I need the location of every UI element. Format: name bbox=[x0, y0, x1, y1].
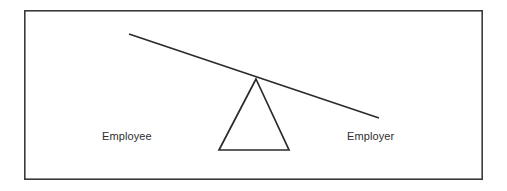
diagram-border bbox=[25, 11, 482, 179]
label-employer: Employer bbox=[347, 130, 394, 143]
label-employee: Employee bbox=[102, 130, 152, 143]
seesaw-diagram: Employee Employer bbox=[0, 0, 507, 191]
diagram-canvas bbox=[0, 0, 507, 191]
